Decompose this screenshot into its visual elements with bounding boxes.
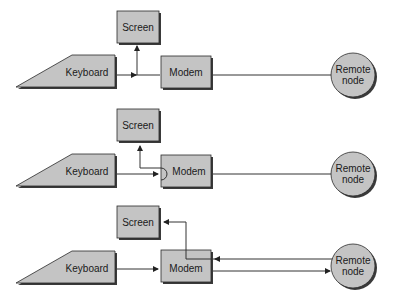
- panel-2: Screen Keyboard Modem Remote node: [16, 109, 377, 198]
- modem-to-screen-wire: [140, 146, 161, 168]
- remote-node: Remote node: [331, 53, 377, 99]
- modem-node: Modem: [161, 155, 213, 189]
- modem-label: Modem: [169, 263, 202, 274]
- keyboard-node: Keyboard: [16, 251, 117, 285]
- panel-1: Screen Keyboard Modem Remote node: [16, 11, 377, 99]
- screen-label: Screen: [122, 22, 154, 33]
- remote-label-line2: node: [342, 75, 365, 86]
- remote-node: Remote node: [331, 244, 377, 290]
- screen-label: Screen: [122, 120, 154, 131]
- modem-label: Modem: [172, 166, 205, 177]
- screen-node: Screen: [117, 11, 161, 45]
- remote-label-line1: Remote: [335, 255, 370, 266]
- modem-node: Modem: [161, 56, 213, 90]
- screen-node: Screen: [117, 109, 161, 143]
- modem-node: Modem: [161, 250, 213, 284]
- keyboard-label: Keyboard: [66, 166, 109, 177]
- communication-echo-diagram: Screen Keyboard Modem Remote node: [0, 0, 395, 308]
- remote-node: Remote node: [331, 152, 377, 198]
- remote-label-line1: Remote: [335, 64, 370, 75]
- keyboard-node: Keyboard: [16, 55, 117, 89]
- panel-3: Screen Keyboard Modem Remote node: [16, 206, 377, 290]
- keyboard-label: Keyboard: [66, 67, 109, 78]
- screen-node: Screen: [117, 206, 161, 240]
- keyboard-node: Keyboard: [16, 154, 117, 188]
- remote-label-line2: node: [342, 174, 365, 185]
- modem-label: Modem: [169, 67, 202, 78]
- keyboard-label: Keyboard: [66, 263, 109, 274]
- remote-label-line1: Remote: [335, 163, 370, 174]
- screen-label: Screen: [122, 217, 154, 228]
- remote-label-line2: node: [342, 266, 365, 277]
